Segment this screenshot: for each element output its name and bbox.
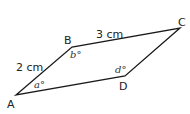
vertex-label-d: D [119, 80, 127, 93]
vertex-label-c: C [178, 16, 186, 29]
side-label-ab: 2 cm [16, 61, 43, 74]
side-label-bc: 3 cm [96, 28, 123, 41]
angle-label-d: d° [115, 64, 126, 75]
angle-label-b: b° [70, 49, 81, 60]
parallelogram-diagram: A B C D 3 cm 2 cm b° a° d° [0, 0, 190, 114]
vertex-label-b: B [64, 34, 72, 47]
vertex-label-a: A [7, 98, 15, 111]
angle-label-a: a° [34, 79, 45, 90]
